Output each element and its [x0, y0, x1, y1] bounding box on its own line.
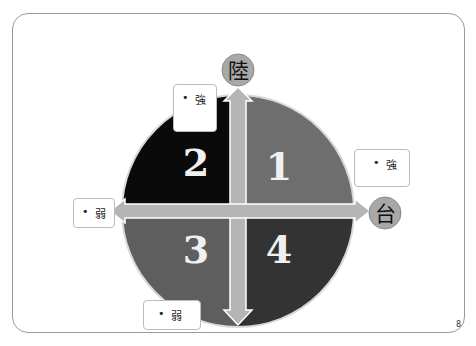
callout-text: 弱	[171, 307, 182, 323]
callout-text: 弱	[95, 205, 106, 221]
horizontal-axis-label: 台	[375, 202, 396, 226]
callout-left-weak: • 弱	[73, 198, 115, 228]
quadrant-3-number: 3	[183, 227, 209, 272]
quadrant-1	[238, 90, 368, 211]
callout-text: 強	[195, 91, 206, 107]
quadrant-4	[238, 211, 368, 341]
callout-top-strong: • 強	[173, 84, 217, 132]
page-number: 8	[456, 320, 461, 329]
quadrant-2-number: 2	[183, 140, 209, 185]
bullet-icon: •	[182, 91, 189, 107]
bullet-icon: •	[373, 156, 380, 172]
bullet-icon: •	[82, 205, 89, 221]
vertical-axis-label: 陸	[228, 59, 249, 83]
callout-right-strong: • 強	[354, 149, 410, 187]
quadrant-4-number: 4	[266, 227, 292, 272]
callout-bottom-weak: • 弱	[143, 300, 201, 330]
quadrant-1-number: 1	[266, 144, 292, 189]
bullet-icon: •	[158, 307, 165, 323]
callout-text: 強	[386, 156, 397, 172]
